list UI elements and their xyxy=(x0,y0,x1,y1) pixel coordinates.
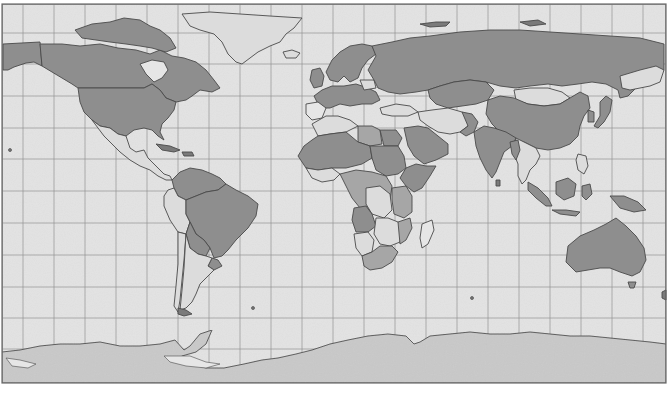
world-map-canvas xyxy=(0,0,671,393)
hispaniola xyxy=(182,152,194,156)
island-south-atlantic xyxy=(252,307,255,310)
sri-lanka xyxy=(496,180,500,186)
borneo xyxy=(556,178,576,200)
russia xyxy=(368,30,664,98)
island-indian-ocean xyxy=(471,297,474,300)
island-pacific xyxy=(9,149,12,152)
world-map xyxy=(0,0,671,393)
uk-ireland xyxy=(310,68,324,88)
east-africa xyxy=(392,186,412,218)
korea xyxy=(588,110,594,122)
